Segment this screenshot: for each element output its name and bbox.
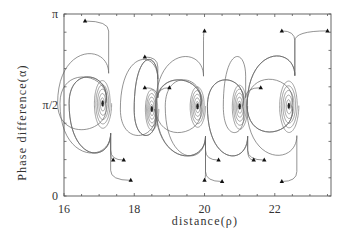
x-tick-label: 18: [128, 202, 140, 216]
start-marker-icon: [202, 28, 206, 32]
start-marker-icon: [262, 158, 266, 162]
y-tick-label: π: [52, 7, 58, 21]
start-marker-icon: [280, 179, 284, 183]
x-tick-label: 22: [269, 202, 281, 216]
tick-labels: 161820220π/2π: [43, 7, 281, 216]
y-tick-label: π/2: [43, 98, 58, 112]
start-marker-icon: [122, 158, 126, 162]
start-marker-icon: [143, 85, 147, 89]
phase-plane-chart: 161820220π/2π: [0, 0, 347, 243]
start-marker-icon: [325, 28, 329, 32]
start-marker-icon: [83, 19, 87, 23]
x-axis-label: distance(ρ): [150, 214, 260, 229]
start-marker-icon: [280, 28, 284, 32]
start-marker-icon: [129, 178, 133, 182]
y-tick-label: 0: [52, 189, 58, 203]
start-marker-icon: [202, 178, 206, 182]
start-marker-icon: [216, 158, 220, 162]
y-axis-label-container: Phase difference(α): [2, 20, 32, 190]
start-marker-icon: [143, 54, 147, 58]
start-marker-icon: [220, 179, 224, 183]
start-marker-icon: [259, 85, 263, 89]
y-axis-label: Phase difference(α): [15, 43, 30, 203]
trajectory-curves: [58, 21, 328, 181]
x-tick-label: 16: [58, 202, 70, 216]
